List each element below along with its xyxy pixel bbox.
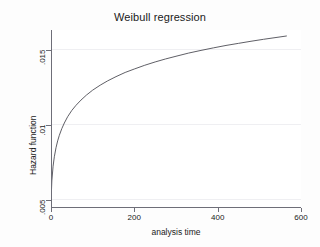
y-axis-title: Hazard function [28, 115, 38, 175]
x-tick-mark [51, 208, 52, 212]
y-tick-mark [46, 200, 51, 201]
x-tick-mark [134, 208, 135, 212]
y-tick-label: .01 [38, 124, 47, 164]
x-tick-label: 200 [119, 213, 149, 222]
chart-title: Weibull regression [0, 11, 320, 23]
y-tick-mark [46, 125, 51, 126]
plot-area [51, 30, 301, 207]
x-tick-mark [218, 208, 219, 212]
x-axis-title: analysis time [51, 227, 301, 237]
plot-svg [51, 30, 301, 207]
y-tick-mark [46, 50, 51, 51]
y-axis-line [51, 30, 52, 208]
series-group [51, 36, 286, 203]
y-tick-label: .015 [38, 49, 47, 89]
x-tick-mark [301, 208, 302, 212]
data-line-0 [51, 36, 286, 203]
x-tick-label: 600 [286, 213, 316, 222]
x-tick-label: 0 [36, 213, 66, 222]
gridlines [51, 50, 301, 200]
x-axis-line [51, 207, 301, 208]
x-tick-label: 400 [203, 213, 233, 222]
chart-figure: Weibull regression .005.01.015 020040060… [0, 0, 320, 247]
